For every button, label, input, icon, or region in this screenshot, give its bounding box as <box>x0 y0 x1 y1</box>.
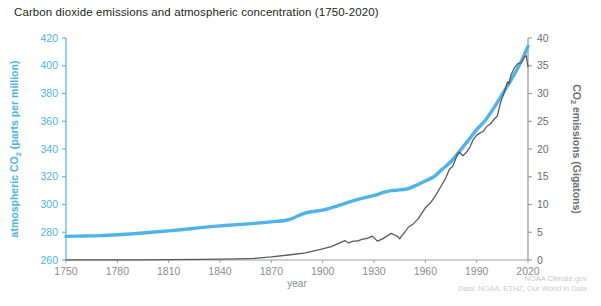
right-axis-tick-label: 5 <box>537 226 543 238</box>
left-axis-tick-label: 260 <box>40 254 58 266</box>
chart-plot: 2602803003203403603804004200510152025303… <box>0 0 601 306</box>
x-axis-tick-label: 1990 <box>465 265 489 277</box>
right-axis-tick-label: 40 <box>537 32 549 44</box>
right-axis-tick-label: 15 <box>537 170 549 182</box>
left-axis-title: atmospheric CO2 (parts per million) <box>8 61 23 238</box>
right-axis-tick-label: 20 <box>537 143 549 155</box>
x-axis-tick-label: 1810 <box>157 265 181 277</box>
left-axis-tick-label: 280 <box>40 226 58 238</box>
right-axis-tick-label: 10 <box>537 198 549 210</box>
series-line-co2-concentration <box>66 46 528 236</box>
x-axis-tick-label: 1900 <box>311 265 335 277</box>
right-axis-tick-label: 30 <box>537 87 549 99</box>
right-axis-title: CO2 emissions (Gigatons) <box>569 84 584 214</box>
x-axis-tick-label: 1960 <box>414 265 438 277</box>
x-axis-tick-label: 1780 <box>106 265 130 277</box>
x-axis-tick-label: 1930 <box>362 265 386 277</box>
x-axis-tick-label: 2020 <box>516 265 540 277</box>
left-axis-tick-label: 360 <box>40 115 58 127</box>
chart-figure: Carbon dioxide emissions and atmospheric… <box>0 0 601 306</box>
right-axis-tick-label: 25 <box>537 115 549 127</box>
x-axis-tick-label: 1870 <box>260 265 284 277</box>
x-axis-tick-label: 1840 <box>208 265 232 277</box>
left-axis-tick-label: 320 <box>40 170 58 182</box>
series-layer <box>66 46 528 260</box>
x-axis-tick-label: 1750 <box>54 265 78 277</box>
left-axis-tick-label: 340 <box>40 143 58 155</box>
left-axis-tick-label: 420 <box>40 32 58 44</box>
left-axis-tick-label: 380 <box>40 87 58 99</box>
x-axis-title: year <box>287 278 307 289</box>
series-line-co2-emissions <box>66 56 528 260</box>
label-layer: 2602803003203403603804004200510152025303… <box>8 32 583 289</box>
left-axis-tick-label: 400 <box>40 59 58 71</box>
right-axis-tick-label: 0 <box>537 254 543 266</box>
left-axis-tick-label: 300 <box>40 198 58 210</box>
right-axis-tick-label: 35 <box>537 59 549 71</box>
